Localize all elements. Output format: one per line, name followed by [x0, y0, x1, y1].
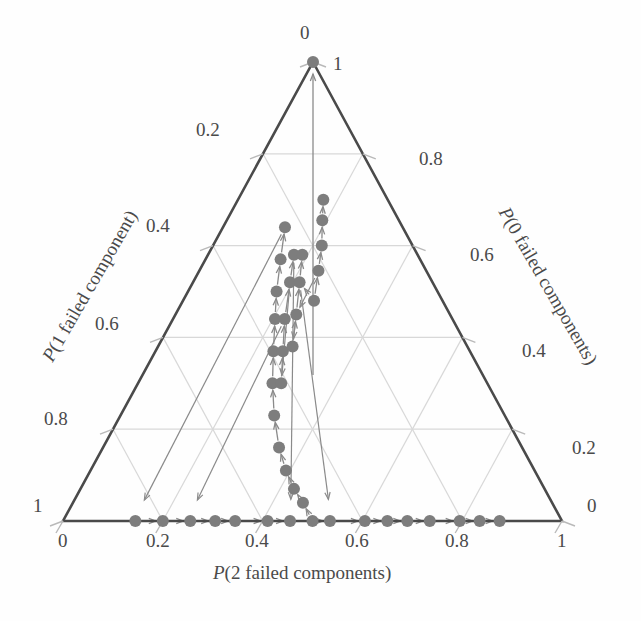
left-tick-label-5: 1 — [33, 495, 43, 517]
bottom-axis-title: P(2 failed components) — [213, 562, 391, 584]
bottom-tick-label-3: 0.6 — [345, 530, 369, 552]
right-tick-label-3: 0.4 — [522, 340, 546, 362]
bottom-tick-label-0: 0 — [58, 530, 68, 552]
bottom-tick-label-5: 1 — [557, 530, 567, 552]
left-tick-label-0: 0 — [300, 22, 310, 44]
left-tick-label-3: 0.6 — [95, 313, 119, 335]
ternary-plot-canvas — [0, 0, 641, 621]
ternary-plot: 0 0.2 0.4 0.6 0.8 1 0 0.2 0.4 0.6 0.8 1 … — [0, 0, 641, 621]
left-tick-label-2: 0.4 — [146, 215, 170, 237]
right-tick-label-0: 1 — [333, 53, 343, 75]
left-tick-label-1: 0.2 — [196, 119, 220, 141]
left-tick-label-4: 0.8 — [44, 408, 68, 430]
right-tick-label-5: 0 — [587, 495, 597, 517]
bottom-tick-label-4: 0.8 — [445, 530, 469, 552]
bottom-tick-label-2: 0.4 — [245, 530, 269, 552]
right-tick-label-2: 0.6 — [470, 244, 494, 266]
bottom-tick-label-1: 0.2 — [146, 530, 170, 552]
data-points-group — [129, 56, 505, 527]
right-tick-label-1: 0.8 — [419, 148, 443, 170]
right-tick-label-4: 0.2 — [572, 437, 596, 459]
